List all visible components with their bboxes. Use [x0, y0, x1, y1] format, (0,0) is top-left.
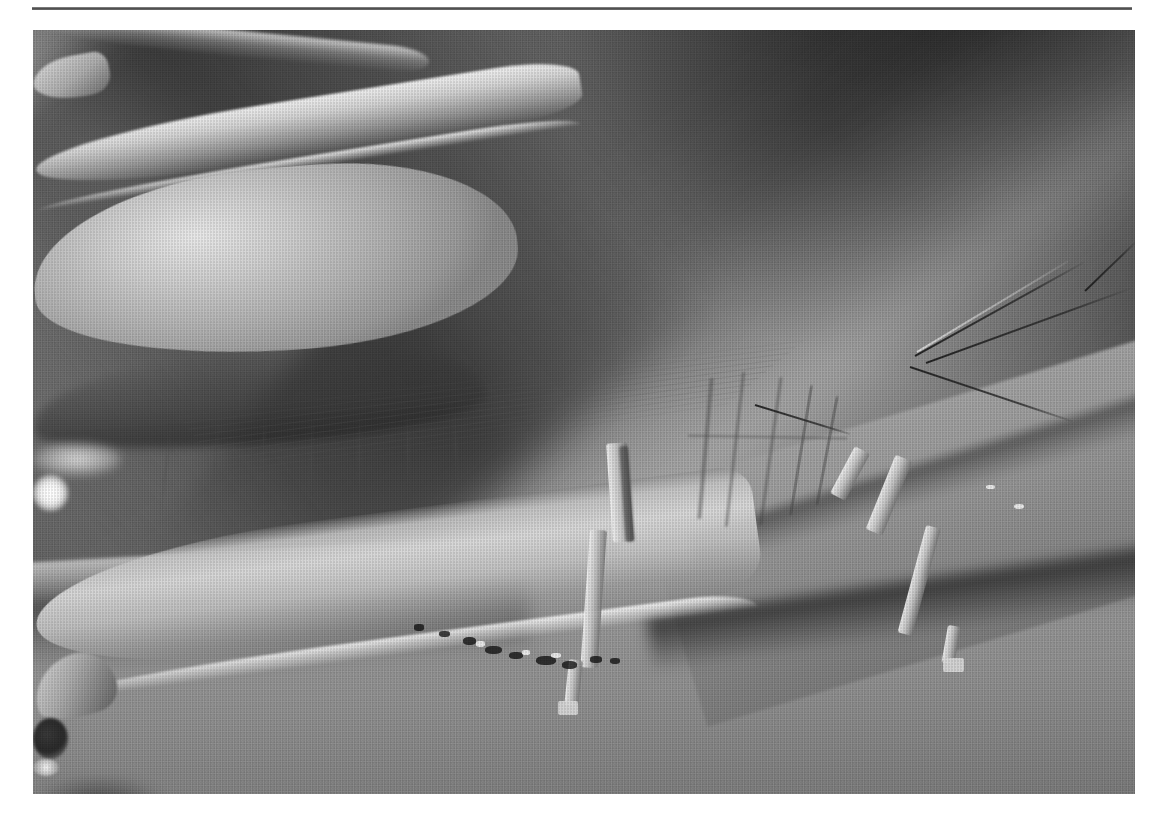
antenna-upper [914, 261, 1084, 356]
antennae [33, 30, 1135, 794]
document-page [0, 0, 1164, 825]
grasshopper-subject [33, 30, 1135, 794]
horizontal-rule [32, 7, 1132, 10]
grasshopper-photograph [33, 30, 1135, 794]
antenna-lower [910, 366, 1073, 422]
antenna-lower-continuation [755, 404, 850, 435]
antenna-upper-tip [1085, 240, 1135, 291]
